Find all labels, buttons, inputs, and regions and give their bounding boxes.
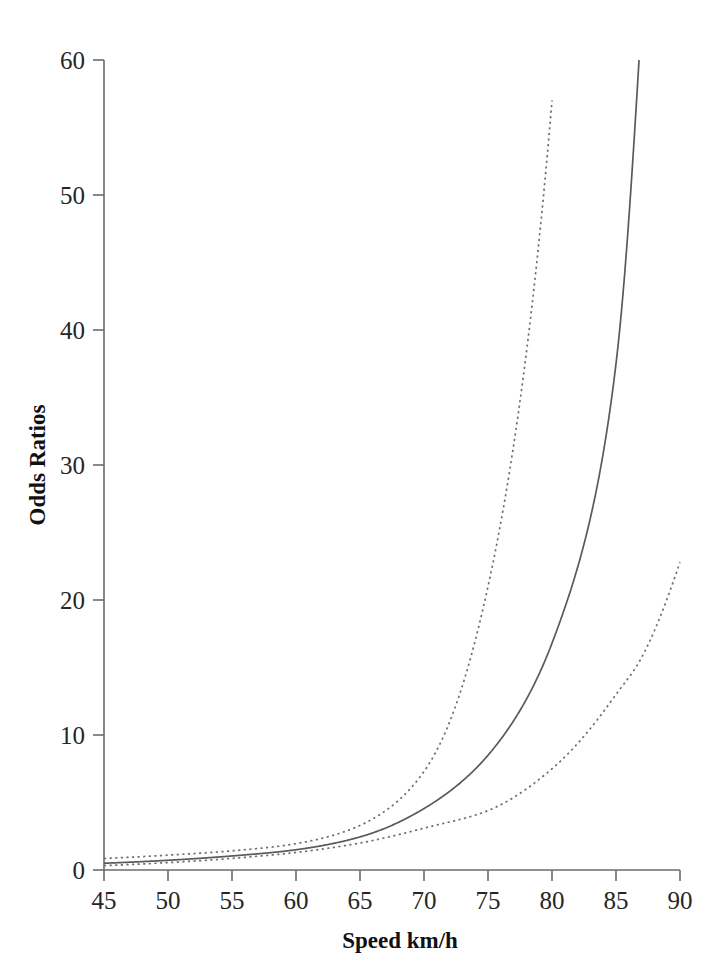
x-tick-label: 80 [540,887,565,914]
y-tick-label: 10 [60,722,85,749]
x-axis-ticks: 45505560657075808590 [92,870,693,914]
chart-figure: 45505560657075808590 0102030405060 Speed… [0,0,728,978]
x-tick-label: 60 [284,887,309,914]
chart-plot-area: 45505560657075808590 0102030405060 Speed… [0,0,728,978]
y-tick-label: 40 [60,317,85,344]
x-axis-title: Speed km/h [342,928,458,953]
y-tick-label: 50 [60,182,85,209]
x-tick-label: 70 [412,887,437,914]
upper-confidence-curve [104,101,552,859]
y-axis-ticks: 0102030405060 [60,47,104,884]
y-tick-label: 0 [73,857,86,884]
x-tick-label: 50 [156,887,181,914]
x-tick-label: 45 [92,887,117,914]
x-tick-label: 75 [476,887,501,914]
x-tick-label: 65 [348,887,373,914]
y-tick-label: 30 [60,452,85,479]
y-axis-title: Odds Ratios [25,405,50,526]
x-tick-label: 90 [668,887,693,914]
x-tick-label: 85 [604,887,629,914]
lower-confidence-curve [104,562,680,865]
x-tick-label: 55 [220,887,245,914]
odds-ratio-curve [104,60,639,863]
y-tick-label: 60 [60,47,85,74]
y-tick-label: 20 [60,587,85,614]
